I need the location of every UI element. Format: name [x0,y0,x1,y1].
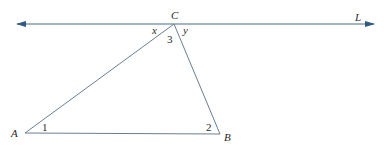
angle-1-label: 1 [42,121,48,133]
label-a: A [10,127,18,139]
segment-ab [25,133,220,134]
label-b: B [224,131,231,143]
segment-ac [25,24,174,133]
diagram-svg: C L A B x y 3 1 2 [0,0,391,148]
label-c: C [171,9,179,21]
label-l: L [354,11,361,23]
geometry-diagram: C L A B x y 3 1 2 [0,0,391,148]
angle-2-label: 2 [206,121,212,133]
angle-3-label: 3 [167,33,173,45]
angle-x-label: x [151,24,157,36]
angle-y-label: y [182,24,188,36]
segment-cb [174,24,220,134]
